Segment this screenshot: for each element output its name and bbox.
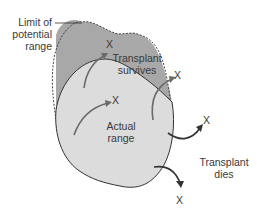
- label-limit-of-potential-range: Limit of potential range: [0, 16, 52, 52]
- label-actual-range: Actual range: [96, 120, 146, 144]
- transplant-site-marker: X: [112, 94, 119, 106]
- label-line: range: [0, 40, 52, 52]
- transplant-site-marker: X: [203, 114, 210, 126]
- label-line: dies: [196, 168, 252, 180]
- label-line: potential: [0, 28, 52, 40]
- label-transplant-dies: Transplant dies: [196, 156, 252, 180]
- label-line: Transplant: [110, 52, 164, 64]
- label-line: range: [96, 132, 146, 144]
- transplant-site-marker: X: [174, 69, 181, 81]
- label-line: Actual: [96, 120, 146, 132]
- label-line: Limit of: [0, 16, 52, 28]
- transplant-site-marker: X: [106, 38, 113, 50]
- label-transplant-survives: Transplant survives: [110, 52, 164, 76]
- transplant-site-marker: X: [176, 194, 183, 206]
- label-line: survives: [110, 64, 164, 76]
- label-line: Transplant: [196, 156, 252, 168]
